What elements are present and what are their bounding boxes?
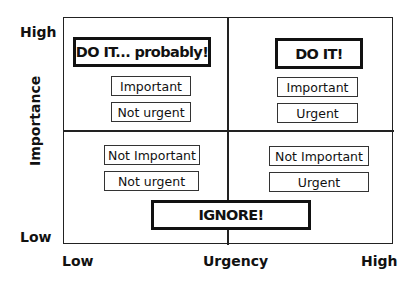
top-right-important-tag: Important bbox=[277, 77, 358, 97]
top-right-urgent-tag: Urgent bbox=[277, 103, 358, 123]
top-left-important-tag: Important bbox=[111, 76, 191, 96]
bottom-right-urgent-tag: Urgent bbox=[269, 172, 369, 192]
do-it-box: DO IT! bbox=[275, 38, 363, 69]
y-axis-title: Importance bbox=[27, 86, 43, 166]
bottom-left-not-urgent-tag: Not urgent bbox=[104, 171, 199, 191]
x-axis-low-label: Low bbox=[62, 253, 93, 269]
bottom-left-not-important-tag: Not Important bbox=[104, 145, 200, 165]
horizontal-divider bbox=[63, 130, 394, 132]
y-axis-low-label: Low bbox=[20, 229, 51, 245]
y-axis-high-label: High bbox=[20, 24, 57, 40]
x-axis-high-label: High bbox=[361, 253, 398, 269]
x-axis-title: Urgency bbox=[203, 253, 268, 269]
bottom-right-not-important-tag: Not Important bbox=[269, 146, 369, 166]
ignore-box: IGNORE! bbox=[151, 200, 311, 230]
top-left-not-urgent-tag: Not urgent bbox=[111, 102, 191, 122]
do-it-probably-box: DO IT... probably! bbox=[73, 37, 211, 67]
